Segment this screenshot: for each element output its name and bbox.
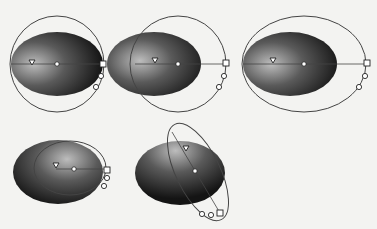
square-size-handle-icon[interactable] [217, 210, 223, 216]
gradient-filled-ellipse[interactable] [13, 140, 103, 204]
square-size-handle-icon[interactable] [223, 60, 229, 66]
rotation-handle-icon[interactable] [98, 73, 103, 78]
center-handle-icon[interactable] [193, 169, 197, 173]
rotation-handle-icon[interactable] [362, 73, 367, 78]
square-size-handle-icon[interactable] [100, 61, 106, 67]
figure-canvas [0, 0, 377, 229]
center-handle-icon[interactable] [302, 62, 306, 66]
square-size-handle-icon[interactable] [104, 167, 110, 173]
square-size-handle-icon[interactable] [364, 60, 370, 66]
skew-handle-icon[interactable] [199, 211, 204, 216]
skew-handle-icon[interactable] [101, 183, 106, 188]
rotation-handle-icon[interactable] [221, 73, 226, 78]
skew-handle-icon[interactable] [356, 84, 361, 89]
gradient-ellipses-diagram [0, 0, 377, 229]
rotation-handle-icon[interactable] [104, 175, 109, 180]
center-handle-icon[interactable] [55, 62, 59, 66]
skew-handle-icon[interactable] [93, 84, 98, 89]
skew-handle-icon[interactable] [216, 84, 221, 89]
ellipse-5[interactable] [135, 115, 241, 229]
rotation-handle-icon[interactable] [208, 212, 213, 217]
ellipse-4[interactable] [13, 140, 110, 204]
ellipse-2[interactable] [107, 16, 229, 112]
ellipse-3[interactable] [242, 16, 370, 112]
ellipse-1[interactable] [10, 16, 106, 112]
center-handle-icon[interactable] [176, 62, 180, 66]
center-handle-icon[interactable] [72, 167, 76, 171]
